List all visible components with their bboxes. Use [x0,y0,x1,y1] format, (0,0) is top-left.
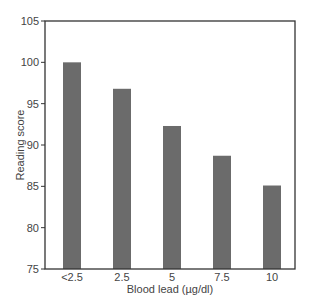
y-tick-label: 75 [27,263,39,275]
x-tick-label: <2.5 [61,271,83,283]
bar-0 [63,62,81,269]
bar-2 [163,126,181,269]
y-tick-label: 90 [27,139,39,151]
y-tick-label: 105 [21,15,39,27]
x-tick-label: 2.5 [114,271,129,283]
x-tick-label: 5 [169,271,175,283]
y-tick-label: 95 [27,98,39,110]
y-tick-label: 100 [21,56,39,68]
bar-4 [263,186,281,269]
bar-1 [113,89,131,269]
bars-group [63,62,281,269]
y-tick-label: 85 [27,180,39,192]
y-axis-label: Reading score [14,110,26,181]
x-tick-label: 10 [266,271,278,283]
x-tick-label: 7.5 [214,271,229,283]
x-axis-ticks: <2.52.557.510 [61,271,278,283]
bar-3 [213,156,231,269]
x-axis-label: Blood lead (µg/dl) [127,283,213,295]
bar-chart: 7580859095100105 <2.52.557.510 Blood lea… [0,0,310,302]
y-tick-label: 80 [27,222,39,234]
